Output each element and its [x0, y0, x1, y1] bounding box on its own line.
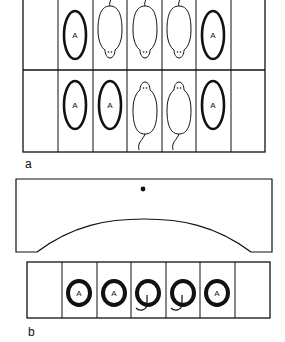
mouse-icon: [98, 0, 122, 58]
panel-label-b: b: [28, 325, 35, 339]
mouse-icon: [167, 82, 191, 150]
ring-icon: A: [64, 11, 86, 59]
ring-icon: A: [206, 281, 228, 305]
svg-text:A: A: [214, 289, 220, 298]
ring-icon: A: [99, 81, 121, 129]
panel-b-strip: [27, 262, 270, 318]
ring-icon: A: [202, 81, 224, 129]
panel-label-a: a: [25, 157, 32, 171]
pin-hole-icon: [141, 187, 146, 192]
mouse-in-ring-icon: [136, 281, 159, 310]
mouse-icon: [133, 0, 157, 58]
arched-cover: [16, 179, 272, 252]
svg-text:A: A: [111, 289, 117, 298]
ring-icon: A: [202, 11, 224, 59]
ring-icon: A: [103, 281, 125, 305]
mouse-in-ring-icon: [171, 281, 194, 310]
svg-text:A: A: [210, 31, 216, 40]
svg-text:A: A: [72, 31, 78, 40]
ring-icon: A: [64, 81, 86, 129]
ring-icon: A: [68, 281, 90, 305]
diagram-canvas: A A A A A a A A: [0, 0, 285, 342]
mouse-icon: [133, 82, 157, 150]
svg-text:A: A: [107, 101, 113, 110]
svg-text:A: A: [210, 101, 216, 110]
mouse-icon: [167, 0, 191, 58]
svg-text:A: A: [76, 289, 82, 298]
svg-text:A: A: [72, 101, 78, 110]
